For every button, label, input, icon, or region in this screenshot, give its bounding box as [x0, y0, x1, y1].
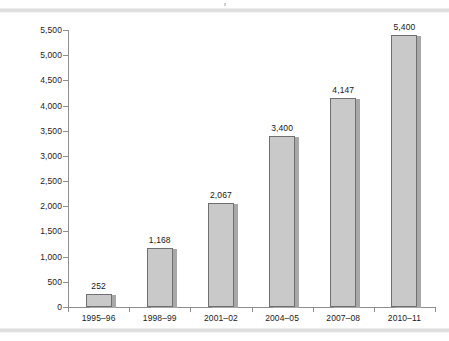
y-axis-tick-label: 2,500 — [18, 177, 62, 186]
bar[interactable] — [86, 294, 112, 307]
x-axis-label: 2010–11 — [369, 314, 439, 323]
bar[interactable] — [147, 248, 173, 307]
y-axis-tick — [63, 106, 69, 107]
bar[interactable] — [208, 203, 234, 307]
x-axis-tick — [374, 307, 375, 312]
y-axis-tick — [63, 131, 69, 132]
bar-value-label: 1,168 — [130, 236, 190, 245]
y-axis-tick-label: 1,500 — [18, 227, 62, 236]
y-axis-tick-label: 3,500 — [18, 127, 62, 136]
y-axis-tick-label: 5,000 — [18, 51, 62, 60]
y-axis-tick — [63, 80, 69, 81]
x-axis-label: 2001–02 — [186, 314, 256, 323]
y-axis-line — [68, 30, 69, 308]
y-axis-tick — [63, 181, 69, 182]
y-axis-tick — [63, 231, 69, 232]
x-axis-tick — [68, 307, 69, 312]
y-axis-tick — [63, 30, 69, 31]
y-axis-tick-label: 500 — [18, 278, 62, 287]
x-axis-label: 1995–96 — [64, 314, 134, 323]
x-axis-tick — [435, 307, 436, 312]
x-axis-label: 2007–08 — [308, 314, 378, 323]
y-axis-tick-label: 0 — [18, 303, 62, 312]
y-axis-tick-label: 1,000 — [18, 253, 62, 262]
bar-value-label: 3,400 — [252, 124, 312, 133]
y-axis-tick-label: 4,000 — [18, 102, 62, 111]
y-axis-tick-label: 2,000 — [18, 202, 62, 211]
x-axis-label: 1998–99 — [125, 314, 195, 323]
y-axis-tick — [63, 257, 69, 258]
y-axis-tick-label: 5,500 — [18, 26, 62, 35]
bar-value-label: 2,067 — [191, 191, 251, 200]
bar[interactable] — [269, 136, 295, 307]
y-axis-tick — [63, 55, 69, 56]
page: 05001,0001,5002,0002,5003,0003,5004,0004… — [0, 0, 449, 341]
bar-value-label: 4,147 — [313, 86, 373, 95]
bar-value-label: 5,400 — [374, 23, 434, 32]
y-axis-tick-label: 3,000 — [18, 152, 62, 161]
x-axis-tick — [313, 307, 314, 312]
y-axis-tick-label: 4,500 — [18, 76, 62, 85]
x-axis-tick — [129, 307, 130, 312]
x-axis-tick — [252, 307, 253, 312]
bar[interactable] — [391, 35, 417, 307]
x-axis-label: 2004–05 — [247, 314, 317, 323]
y-axis-tick — [63, 156, 69, 157]
x-axis-tick — [190, 307, 191, 312]
bar-value-label: 252 — [69, 282, 129, 291]
bar[interactable] — [330, 98, 356, 307]
bar-chart: 05001,0001,5002,0002,5003,0003,5004,0004… — [0, 0, 449, 341]
y-axis-tick — [63, 206, 69, 207]
